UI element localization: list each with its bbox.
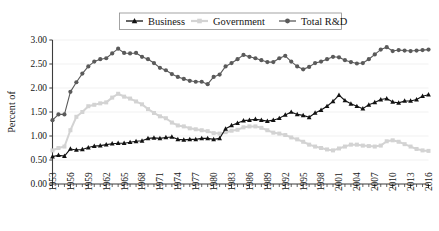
x-tick-label: 1983 — [227, 172, 237, 191]
x-tick-label: 1986 — [245, 172, 255, 191]
x-tick-label: 1965 — [120, 172, 130, 191]
series-total-r-d — [50, 45, 430, 122]
y-tick-label: 0.50 — [31, 155, 48, 165]
x-tick-label: 2013 — [406, 172, 416, 191]
x-tick-label: 1998 — [316, 172, 326, 191]
x-tick-label: 1995 — [299, 172, 309, 191]
x-tick-label: 1956 — [66, 172, 76, 191]
y-axis-ticks: 0.000.501.001.502.002.503.00 — [31, 35, 53, 189]
data-series — [50, 45, 431, 158]
x-tick-label: 1968 — [137, 172, 147, 191]
rd-percent-line-chart: 0.000.501.001.502.002.503.00 19531956195… — [0, 0, 439, 231]
y-tick-label: 2.00 — [31, 83, 48, 93]
y-tick-label: 0.00 — [31, 179, 48, 189]
y-axis-title: Percent of — [6, 91, 17, 133]
y-tick-label: 3.00 — [31, 35, 48, 45]
legend-label: Total R&D — [301, 16, 348, 27]
x-tick-label: 1959 — [84, 172, 94, 191]
x-tick-label: 2001 — [334, 172, 344, 191]
x-tick-label: 1980 — [209, 172, 219, 191]
y-tick-label: 2.50 — [31, 59, 48, 69]
x-tick-label: 1989 — [263, 172, 273, 191]
y-tick-label: 1.50 — [31, 107, 48, 117]
x-tick-label: 2016 — [424, 172, 434, 191]
x-tick-label: 1962 — [102, 172, 112, 191]
x-axis-ticks: 1953195619591962196519681971197419771980… — [48, 172, 434, 191]
x-tick-label: 1953 — [48, 172, 58, 191]
x-tick-label: 1974 — [173, 172, 183, 191]
y-tick-label: 1.00 — [31, 131, 48, 141]
x-tick-label: 1977 — [191, 172, 201, 191]
x-tick-label: 2004 — [352, 172, 362, 191]
x-tick-label: 2010 — [388, 172, 398, 191]
chart-legend[interactable]: BusinessGovernmentTotal R&D — [120, 13, 348, 30]
x-tick-label: 1992 — [281, 172, 291, 191]
chart-figure: 0.000.501.001.502.002.503.00 19531956195… — [0, 0, 439, 231]
x-tick-label: 2007 — [370, 172, 380, 191]
y-axis-title-text: Percent of — [6, 91, 17, 133]
x-tick-label: 1971 — [155, 172, 165, 191]
legend-label: Business — [148, 16, 185, 27]
legend-label: Government — [213, 16, 265, 27]
cropped-caption-row — [0, 220, 439, 231]
